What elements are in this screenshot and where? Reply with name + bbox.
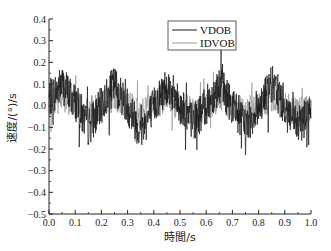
series-idvob — [49, 72, 311, 142]
y-tick-label: 0.1 — [34, 79, 47, 90]
line-chart: 0.40.30.20.10.0−0.1−0.2−0.3−0.4−0.5 0.00… — [0, 0, 331, 251]
y-tick-label: −0.3 — [28, 165, 46, 176]
x-tick-label: 0.5 — [174, 217, 187, 228]
y-tick-label: 0.3 — [34, 35, 47, 46]
plot-series — [49, 46, 311, 155]
x-tick-label: 0.2 — [95, 217, 108, 228]
legend-label-idvob: IDVOB — [200, 37, 235, 49]
x-tick-label: 1.0 — [305, 217, 318, 228]
x-tick-label: 0.0 — [43, 217, 56, 228]
x-tick-label: 0.3 — [121, 217, 134, 228]
y-tick-label: 0.2 — [34, 57, 47, 68]
x-tick-label: 0.9 — [279, 217, 292, 228]
y-tick-label: −0.2 — [28, 144, 46, 155]
y-tick-label: −0.1 — [28, 122, 46, 133]
y-tick-label: −0.4 — [28, 187, 46, 198]
legend: VDOB IDVOB — [168, 21, 236, 50]
x-tick-label: 0.6 — [200, 217, 213, 228]
y-tick-label: 0.4 — [34, 14, 47, 25]
y-tick-label: 0.0 — [34, 100, 47, 111]
y-axis-title: 速度/(°)/s — [5, 93, 19, 142]
x-tick-label: 0.8 — [252, 217, 265, 228]
x-tick-label: 0.1 — [69, 217, 82, 228]
legend-label-vdob: VDOB — [200, 24, 231, 36]
x-tick-label: 0.4 — [148, 217, 161, 228]
x-ticks: 0.00.10.20.30.40.50.60.70.80.91.0 — [43, 210, 318, 228]
x-tick-label: 0.7 — [226, 217, 239, 228]
x-axis-title: 時間/s — [164, 231, 196, 244]
